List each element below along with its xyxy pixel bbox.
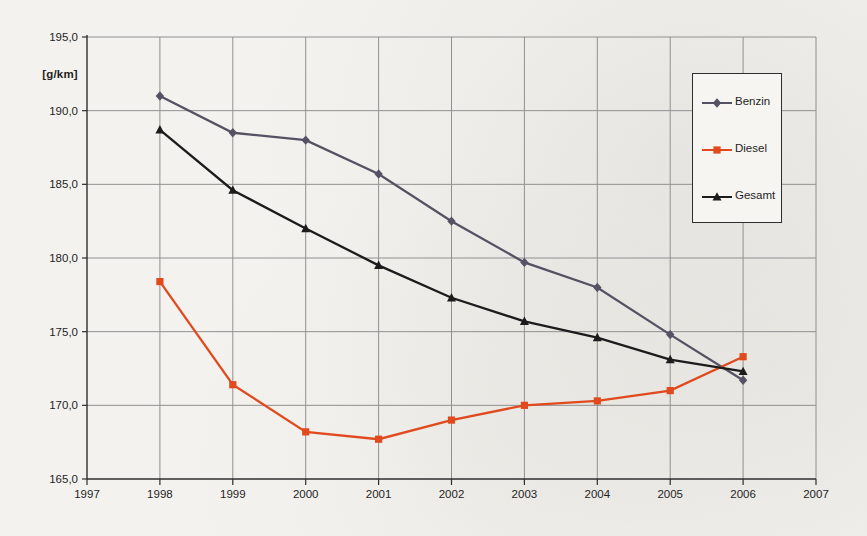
x-tick-label: 1997 (74, 488, 100, 500)
y-tick-label: 185,0 (49, 178, 78, 190)
y-tick-label: 175,0 (49, 326, 78, 338)
diesel-point (594, 397, 601, 404)
x-tick-label: 1999 (220, 488, 246, 500)
benzin-point (229, 128, 237, 137)
diesel-point (302, 428, 309, 435)
benzin-point (739, 376, 747, 385)
benzin-point (156, 91, 164, 100)
x-tick-label: 2001 (366, 488, 392, 500)
diesel-point (448, 416, 455, 423)
diesel-square-line-icon (701, 142, 733, 154)
diesel-point (156, 278, 163, 285)
x-tick-label: 2007 (803, 488, 829, 500)
diesel-point (667, 387, 674, 394)
x-tick-label: 2000 (293, 488, 319, 500)
x-tick-label: 2002 (439, 488, 465, 500)
x-tick-label: 2003 (512, 488, 538, 500)
y-tick-label: 190,0 (49, 105, 78, 117)
scanned-co2-emissions-chart-page: 165,0170,0175,0180,0185,0190,0195,019971… (0, 0, 867, 536)
legend-entry-gesamt: Gesamt (701, 189, 779, 201)
legend-label-diesel: Diesel (735, 142, 767, 154)
legend-label-benzin: Benzin (735, 95, 770, 107)
diesel-point (740, 353, 747, 360)
y-tick-label: 195,0 (49, 31, 78, 43)
benzin-point (374, 169, 382, 178)
benzin-point (520, 258, 528, 267)
chart-legend: Benzin Diesel Gesamt (692, 73, 782, 223)
x-tick-label: 2006 (730, 488, 756, 500)
diesel-point (375, 436, 382, 443)
legend-entry-diesel: Diesel (701, 142, 779, 154)
diesel-point (521, 402, 528, 409)
benzin-diamond-line-icon (701, 95, 733, 107)
legend-label-gesamt: Gesamt (735, 189, 775, 201)
gesamt-triangle-line-icon (701, 189, 733, 201)
legend-entry-benzin: Benzin (701, 95, 779, 107)
gesamt-point (155, 125, 164, 133)
x-tick-label: 1998 (147, 488, 173, 500)
y-tick-label: 165,0 (49, 473, 78, 485)
benzin-point (302, 135, 310, 144)
y-axis-unit-label: [g/km] (37, 68, 83, 80)
benzin-point (447, 216, 455, 225)
diesel-point (229, 381, 236, 388)
x-tick-label: 2005 (657, 488, 683, 500)
y-tick-label: 170,0 (49, 399, 78, 411)
benzin-point (593, 283, 601, 292)
x-tick-label: 2004 (585, 488, 611, 500)
y-tick-label: 180,0 (49, 252, 78, 264)
